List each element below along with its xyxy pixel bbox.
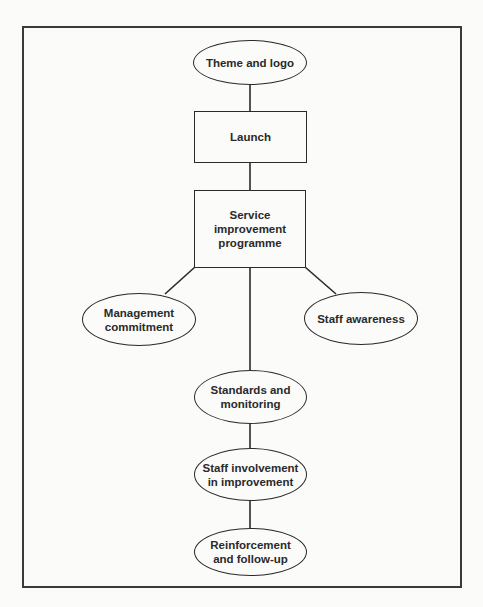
edge-sip-mgmt bbox=[165, 267, 195, 294]
node-label: Management commitment bbox=[104, 306, 174, 334]
node-theme-and-logo: Theme and logo bbox=[193, 40, 307, 85]
node-staff-awareness: Staff awareness bbox=[304, 292, 418, 345]
node-label: Service improvement programme bbox=[214, 208, 286, 250]
node-staff-involvement: Staff involvement in improvement bbox=[194, 448, 307, 501]
node-label: Standards and monitoring bbox=[211, 383, 291, 411]
node-launch: Launch bbox=[194, 111, 307, 163]
node-label: Launch bbox=[230, 130, 271, 144]
node-standards-and-monitoring: Standards and monitoring bbox=[194, 370, 307, 424]
node-service-improvement-programme: Service improvement programme bbox=[194, 190, 306, 268]
node-label: Reinforcement and follow-up bbox=[210, 538, 291, 566]
node-label: Theme and logo bbox=[206, 56, 294, 70]
diagram-canvas: Theme and logo Launch Service improvemen… bbox=[0, 0, 483, 607]
node-label: Staff involvement in improvement bbox=[203, 461, 299, 489]
edge-sip-awareness bbox=[305, 267, 336, 294]
node-management-commitment: Management commitment bbox=[82, 293, 196, 346]
connector-lines bbox=[0, 0, 483, 607]
node-label: Staff awareness bbox=[317, 312, 405, 326]
node-reinforcement-and-follow-up: Reinforcement and follow-up bbox=[194, 528, 307, 576]
